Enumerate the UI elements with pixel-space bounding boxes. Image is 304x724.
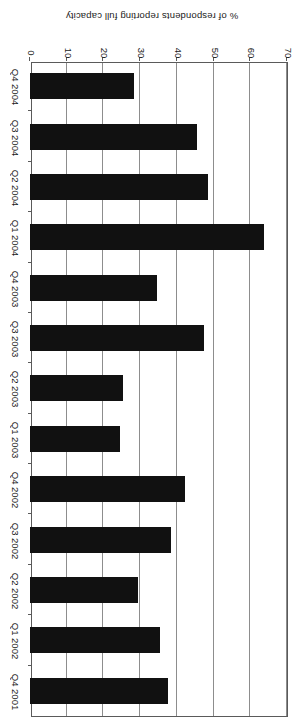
value-axis-tick-label: 50 — [208, 40, 222, 66]
gridline — [249, 63, 250, 716]
bar — [30, 325, 204, 351]
category-label: Q1 2002 — [8, 613, 22, 669]
value-axis-tick-labels: 010203040506070 — [0, 36, 304, 60]
category-label: Q3 2002 — [8, 513, 22, 569]
rotated-figure-wrapper: 010203040506070 Q4 2001Q1 2002Q2 2002Q3 … — [0, 0, 304, 724]
gridline — [286, 63, 287, 716]
value-axis-tick-label: 30 — [134, 40, 148, 66]
category-label: Q4 2003 — [8, 261, 22, 317]
bar — [30, 678, 168, 704]
category-axis-labels: Q4 2001Q1 2002Q2 2002Q3 2002Q4 2002Q1 20… — [0, 62, 30, 717]
category-label: Q3 2003 — [8, 311, 22, 367]
bar — [30, 426, 120, 452]
gridline — [213, 63, 214, 716]
bar — [30, 376, 123, 402]
category-label: Q4 2002 — [8, 462, 22, 518]
category-label: Q2 2004 — [8, 160, 22, 216]
category-label: Q3 2004 — [8, 110, 22, 166]
gridline — [139, 63, 140, 716]
value-axis-tick-label: 60 — [244, 40, 258, 66]
bar — [30, 627, 160, 653]
bar — [30, 124, 197, 150]
value-axis-tick-label: 20 — [97, 40, 111, 66]
bar — [30, 73, 134, 99]
bar — [30, 476, 185, 502]
bar — [30, 527, 171, 553]
bar — [30, 224, 264, 250]
bar — [30, 275, 157, 301]
value-axis-tick-label: 70 — [281, 40, 295, 66]
gridline — [176, 63, 177, 716]
category-label: Q2 2002 — [8, 563, 22, 619]
bar — [30, 174, 208, 200]
category-label: Q4 2001 — [8, 664, 22, 720]
category-label: Q1 2004 — [8, 210, 22, 266]
value-axis-tick-label: 40 — [171, 40, 185, 66]
category-label: Q1 2003 — [8, 412, 22, 468]
value-axis-tick-label: 10 — [61, 40, 75, 66]
category-label: Q4 2004 — [8, 59, 22, 115]
bar-chart-figure: 010203040506070 Q4 2001Q1 2002Q2 2002Q3 … — [0, 0, 304, 724]
value-axis-title: % of respondents reporting full capacity — [0, 0, 304, 34]
plot-area — [31, 62, 288, 717]
bar — [30, 577, 138, 603]
category-label: Q2 2003 — [8, 362, 22, 418]
